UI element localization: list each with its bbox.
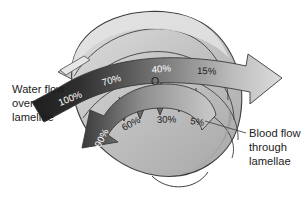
blood-flow-label-line1: Blood flow <box>249 127 302 139</box>
blood-flow-label-line2: through <box>249 141 287 153</box>
water-pct-40: 40% <box>151 62 172 75</box>
water-flow-label-line1: Water flow <box>12 83 65 95</box>
water-flow-label-line2: over <box>12 97 34 109</box>
blood-pct-5: 5% <box>190 115 206 128</box>
water-flow-label-line3: lamellae <box>12 111 54 123</box>
blood-flow-label-line3: lamellae <box>249 155 291 167</box>
water-pct-15: 15% <box>197 65 217 76</box>
diagram-canvas: 100% 70% 40% 15% <box>0 0 308 197</box>
blood-pct-30: 30% <box>157 113 177 125</box>
countercurrent-exchange-diagram: 100% 70% 40% 15% <box>0 0 308 197</box>
